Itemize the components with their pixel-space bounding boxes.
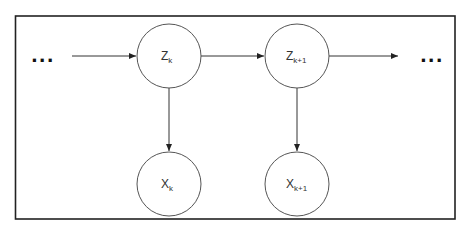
diagram-frame — [16, 16, 456, 219]
node-z-k-label: Z — [161, 49, 168, 63]
node-x-k: Xk — [137, 152, 201, 216]
hmm-diagram: ... ... Zk Zk+1 Xk Xk+1 — [0, 0, 468, 233]
node-z-k1-label: Z — [286, 49, 293, 63]
node-z-k1-subscript: k+1 — [293, 56, 307, 65]
node-x-k-label: X — [161, 177, 169, 191]
ellipsis-right: ... — [420, 45, 444, 66]
node-z-k: Zk — [137, 24, 201, 88]
node-x-k1-label: X — [286, 177, 294, 191]
ellipsis-left: ... — [31, 45, 55, 66]
node-z-k1: Zk+1 — [265, 24, 329, 88]
node-x-k1-subscript: k+1 — [294, 184, 308, 193]
node-x-k1: Xk+1 — [265, 152, 329, 216]
